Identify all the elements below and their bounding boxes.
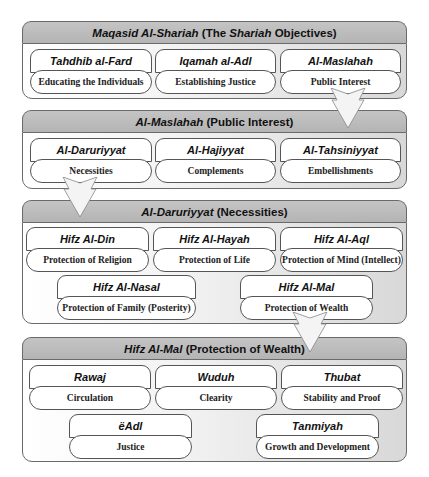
card-subtitle: Clearity xyxy=(155,386,277,410)
header-text: Objectives) xyxy=(271,27,336,39)
card-hifz-al-din: Hifz Al-Din Protection of Religion xyxy=(26,227,149,273)
down-arrow-icon xyxy=(60,177,100,217)
header-italic: Al-Maslahah xyxy=(136,116,204,128)
card-subtitle: Circulation xyxy=(29,386,151,410)
header-text: (The xyxy=(199,27,230,39)
card-subtitle: Justice xyxy=(69,435,192,459)
card-subtitle: Establishing Justice xyxy=(155,70,276,94)
section-body-daruriyyat: Hifz Al-Din Protection of Religion Hifz … xyxy=(22,222,407,324)
card-subtitle: Protection of Family (Posterity) xyxy=(57,296,196,320)
header-italic: Maqasid Al-Shariah xyxy=(92,27,198,39)
card-al-hajiyyat: Al-Hajiyyat Complements xyxy=(155,138,276,184)
section-header-maqasid: Maqasid Al-Shariah (The Shariah Objectiv… xyxy=(22,21,407,43)
header-italic: Shariah xyxy=(229,27,271,39)
header-text: (Protection of Wealth) xyxy=(182,343,304,355)
card-hifz-al-hayah: Hifz Al-Hayah Protection of Life xyxy=(153,227,276,273)
header-text: (Public Interest) xyxy=(203,116,293,128)
card-subtitle: Protection of Life xyxy=(153,248,276,272)
card-tahdhib-al-fard: Tahdhib al-Fard Educating the Individual… xyxy=(30,49,152,95)
card-subtitle: Protection of Religion xyxy=(26,248,149,272)
card-subtitle: Stability and Proof xyxy=(281,386,403,410)
section-body-hifz-al-mal: Rawaj Circulation Wuduh Clearity Thubat … xyxy=(22,359,407,462)
header-italic: Al-Daruriyyat xyxy=(141,206,213,218)
card-al-tahsiniyyat: Al-Tahsiniyyat Embellishments xyxy=(280,138,401,184)
card-subtitle: Educating the Individuals xyxy=(30,70,152,94)
card-subtitle: Embellishments xyxy=(280,159,401,183)
card-thubat: Thubat Stability and Proof xyxy=(281,365,403,411)
card-rawaj: Rawaj Circulation xyxy=(29,365,151,411)
card-tanmiyah: Tanmiyah Growth and Development xyxy=(256,414,379,458)
card-subtitle: Protection of Mind (Intellect) xyxy=(280,248,403,272)
down-arrow-icon xyxy=(328,88,368,128)
down-arrow-icon xyxy=(290,312,330,352)
header-italic: Hifz Al-Mal xyxy=(124,343,182,355)
card-adl: ëAdl Justice xyxy=(69,414,192,458)
card-hifz-al-nasal: Hifz Al-Nasal Protection of Family (Post… xyxy=(57,275,196,321)
card-iqamah-al-adl: Iqamah al-Adl Establishing Justice xyxy=(155,49,276,95)
card-subtitle: Growth and Development xyxy=(256,435,379,459)
header-text: (Necessities) xyxy=(214,206,288,218)
card-wuduh: Wuduh Clearity xyxy=(155,365,277,411)
card-subtitle: Complements xyxy=(155,159,276,183)
section-header-hifz-al-mal: Hifz Al-Mal (Protection of Wealth) xyxy=(22,337,407,359)
card-hifz-al-aql: Hifz Al-Aql Protection of Mind (Intellec… xyxy=(280,227,403,273)
